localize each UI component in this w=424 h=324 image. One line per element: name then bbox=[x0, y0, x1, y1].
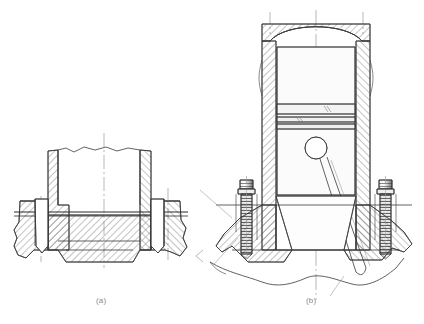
piston-ring-upper-b bbox=[277, 104, 355, 114]
caption-panel-a: (a) bbox=[96, 296, 106, 305]
caption-panel-b: (b) bbox=[306, 296, 316, 305]
drawing-sheet: (a) (b) bbox=[0, 0, 424, 324]
liner-seat-body-a bbox=[48, 215, 151, 262]
technical-drawing bbox=[0, 0, 424, 324]
bolt-hole-left-a bbox=[35, 199, 48, 253]
piston-ring-middle-b bbox=[277, 117, 355, 122]
bolt-hole-right-a bbox=[151, 199, 164, 253]
piston-ring-lower-b bbox=[277, 124, 355, 129]
